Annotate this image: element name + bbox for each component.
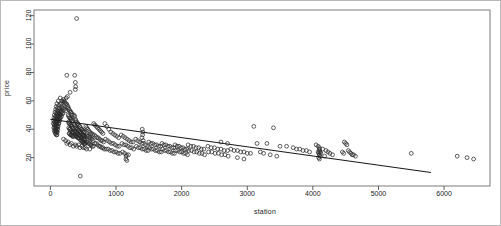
- x-tick-label: 2000: [174, 190, 190, 197]
- axis-layer: [30, 10, 490, 190]
- chart-image-frame: station price 0100020003000400050006000 …: [0, 0, 501, 226]
- regression-line: [50, 119, 431, 172]
- y-tick-label: 20: [26, 153, 33, 161]
- y-axis-title: price: [3, 80, 10, 96]
- x-tick-label: 1000: [108, 190, 124, 197]
- x-tick-label: 6000: [436, 190, 452, 197]
- y-tick-label: 100: [26, 38, 33, 50]
- x-tick-label: 4000: [305, 190, 321, 197]
- data-points-layer: [51, 17, 475, 178]
- y-tick-label: 120: [26, 9, 33, 21]
- x-tick-label: 0: [48, 190, 52, 197]
- y-tick-label: 60: [26, 96, 33, 104]
- x-tick-label: 5000: [371, 190, 387, 197]
- x-tick-label: 3000: [239, 190, 255, 197]
- y-tick-label: 40: [26, 125, 33, 133]
- x-axis-title: station: [254, 208, 276, 215]
- y-tick-label: 80: [26, 68, 33, 76]
